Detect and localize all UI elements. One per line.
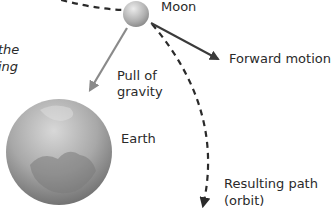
cropped-caption-line2: ing — [0, 59, 18, 75]
orbit-incoming-dashes — [40, 0, 122, 10]
forward-motion-label: Forward motion — [229, 51, 331, 67]
cropped-caption-line1: the — [0, 42, 19, 58]
moon-label: Moon — [161, 0, 196, 15]
orbit-path-arrow — [152, 24, 208, 206]
earth-label: Earth — [121, 131, 156, 147]
forward-motion-arrow — [151, 23, 218, 59]
gravity-label-line1: Pull of — [117, 68, 157, 84]
moon-icon — [123, 1, 149, 27]
orbit-label-line1: Resulting path — [224, 176, 318, 192]
gravity-label-line2: gravity — [117, 84, 163, 100]
orbit-label-line2: (orbit) — [224, 193, 264, 209]
earth-icon — [6, 99, 112, 205]
